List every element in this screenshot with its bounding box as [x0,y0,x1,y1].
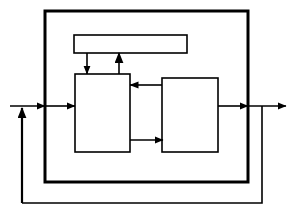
left-block [75,74,130,152]
diagram-canvas [0,0,295,216]
right-block [162,78,218,152]
block-diagram [0,0,295,216]
top-block [74,35,187,53]
